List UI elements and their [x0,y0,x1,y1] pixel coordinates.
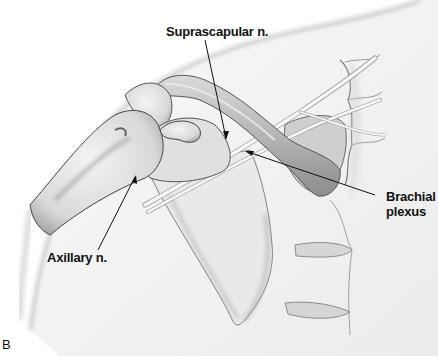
anatomy-figure: Suprascapular n. Brachial plexus Axillar… [0,0,438,356]
label-axillary-nerve: Axillary n. [47,250,107,265]
panel-letter: B [2,337,11,352]
label-brachial-plexus-line1: Brachial [386,189,436,204]
label-brachial-plexus-line2: plexus [386,204,426,219]
shoulder-illustration [0,0,438,356]
label-suprascapular-nerve: Suprascapular n. [166,24,268,39]
